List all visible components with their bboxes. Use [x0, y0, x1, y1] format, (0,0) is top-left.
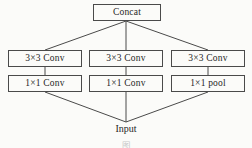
edge-input-to-pool1x1-right: [126, 92, 208, 122]
conv-1x1-middle: 1×1 Conv: [89, 75, 163, 92]
input-label: Input: [0, 124, 252, 134]
edge-conv3x3-right-to-concat: [126, 21, 208, 50]
edge-conv3x3-left-to-concat: [45, 21, 126, 50]
concat-block-label: Concat: [113, 7, 141, 17]
conv-1x1-left-label: 1×1 Conv: [25, 78, 64, 88]
pool-1x1-right: 1×1 pool: [171, 75, 245, 92]
conv-3x3-left: 3×3 Conv: [8, 50, 82, 67]
figure-caption: 图: [0, 141, 252, 148]
conv-3x3-right: 3×3 Conv: [171, 50, 245, 67]
conv-3x3-left-label: 3×3 Conv: [25, 53, 64, 63]
conv-1x1-left: 1×1 Conv: [8, 75, 82, 92]
figure-canvas: Concat 3×3 Conv 3×3 Conv 3×3 Conv 1×1 Co…: [0, 0, 252, 148]
edge-input-to-conv1x1-left: [45, 92, 126, 122]
conv-3x3-middle: 3×3 Conv: [89, 50, 163, 67]
conv-1x1-middle-label: 1×1 Conv: [106, 78, 145, 88]
pool-1x1-right-label: 1×1 pool: [190, 78, 226, 88]
concat-block: Concat: [93, 4, 161, 21]
conv-3x3-middle-label: 3×3 Conv: [106, 53, 145, 63]
conv-3x3-right-label: 3×3 Conv: [188, 53, 227, 63]
